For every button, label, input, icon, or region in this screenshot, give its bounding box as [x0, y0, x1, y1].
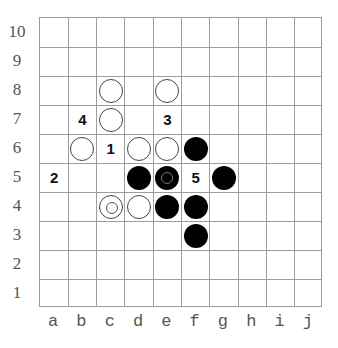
row-label: 5 — [0, 167, 34, 187]
game-board[interactable]: 12345 — [39, 17, 322, 307]
black-stone-d5[interactable] — [127, 166, 151, 190]
move-number-2: 2 — [40, 163, 68, 192]
column-label: g — [209, 312, 237, 331]
column-label: a — [39, 312, 67, 331]
move-number-3: 3 — [153, 105, 181, 134]
row-label: 8 — [0, 80, 34, 100]
white-stone-d4[interactable] — [127, 195, 151, 219]
column-label: i — [266, 312, 294, 331]
white-stone-c7[interactable] — [99, 108, 123, 132]
circle-marker-icon — [106, 202, 118, 214]
row-label: 7 — [0, 109, 34, 129]
row-label: 2 — [0, 254, 34, 274]
white-stone-c8[interactable] — [99, 79, 123, 103]
grid-line-horizontal — [40, 192, 321, 193]
column-label: f — [181, 312, 209, 331]
black-stone-f4[interactable] — [184, 195, 208, 219]
column-label: b — [67, 312, 95, 331]
white-stone-c4[interactable] — [99, 195, 123, 219]
row-label: 1 — [0, 283, 34, 303]
column-label: e — [152, 312, 180, 331]
white-stone-b6[interactable] — [70, 137, 94, 161]
column-label: c — [96, 312, 124, 331]
black-stone-e4[interactable] — [155, 195, 179, 219]
column-label: h — [237, 312, 265, 331]
row-label: 9 — [0, 51, 34, 71]
black-stone-f6[interactable] — [184, 137, 208, 161]
black-stone-e5[interactable] — [155, 166, 179, 190]
grid-line-horizontal — [40, 279, 321, 280]
white-stone-e6[interactable] — [155, 137, 179, 161]
column-label: j — [294, 312, 322, 331]
circle-marker-icon — [161, 172, 173, 184]
grid-line-horizontal — [40, 250, 321, 251]
row-label: 10 — [0, 22, 34, 42]
row-label: 3 — [0, 225, 34, 245]
grid-line-horizontal — [40, 47, 321, 48]
black-stone-f3[interactable] — [184, 224, 208, 248]
row-label: 4 — [0, 196, 34, 216]
column-label: d — [124, 312, 152, 331]
row-label: 6 — [0, 138, 34, 158]
grid-line-horizontal — [40, 221, 321, 222]
black-stone-g5[interactable] — [212, 166, 236, 190]
grid-line-horizontal — [40, 76, 321, 77]
move-number-4: 4 — [68, 105, 96, 134]
grid-line-horizontal — [40, 163, 321, 164]
move-number-5: 5 — [182, 163, 210, 192]
white-stone-e8[interactable] — [155, 79, 179, 103]
white-stone-d6[interactable] — [127, 137, 151, 161]
move-number-1: 1 — [97, 134, 125, 163]
